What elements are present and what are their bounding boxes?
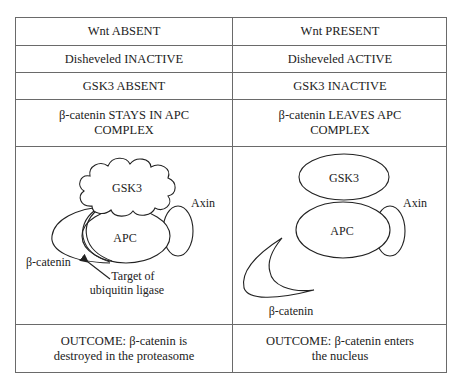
gsk3-label: GSK3 — [329, 171, 359, 185]
right-diagram — [243, 154, 405, 297]
arrow-icon — [88, 262, 110, 279]
target-label: ubiquitin ligase — [90, 283, 164, 297]
diagrams: GSK3 APC Axin β-catenin Target of ubiqui… — [0, 0, 460, 388]
axin-label: Axin — [191, 196, 215, 210]
target-label: Target of — [111, 269, 154, 283]
apc-label: APC — [113, 231, 136, 245]
beta-catenin-label: β-catenin — [269, 304, 314, 318]
apc-label: APC — [330, 224, 353, 238]
beta-catenin-label: β-catenin — [26, 255, 71, 269]
axin-label: Axin — [403, 196, 427, 210]
left-diagram — [52, 158, 193, 279]
beta-catenin-crescent-shape — [243, 238, 314, 297]
gsk3-label: GSK3 — [112, 181, 142, 195]
